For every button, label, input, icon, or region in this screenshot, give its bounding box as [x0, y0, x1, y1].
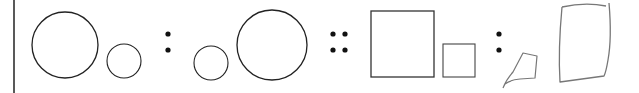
large-square — [371, 11, 434, 77]
large-circle-2 — [237, 10, 307, 80]
double-colon-separator — [330, 31, 347, 52]
small-square — [443, 44, 475, 77]
small-circle — [107, 44, 141, 78]
small-circle-2 — [194, 46, 228, 80]
diagram-canvas — [0, 0, 639, 93]
sketched-large-quad — [559, 3, 610, 82]
colon-separator-1 — [165, 31, 170, 52]
large-circle — [32, 12, 98, 78]
analogy-diagram — [0, 0, 639, 93]
sketched-small-quad — [503, 53, 537, 88]
colon-separator-2 — [496, 31, 501, 52]
